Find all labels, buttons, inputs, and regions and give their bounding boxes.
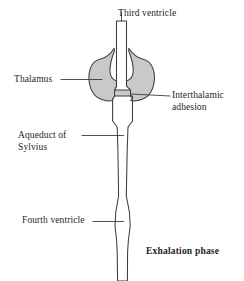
- interthalamic-adhesion-bridge: [115, 90, 131, 96]
- label-interthalamic-adhesion-line1: Interthalamic: [172, 90, 224, 100]
- label-interthalamic-adhesion-line2: adhesion: [172, 102, 207, 112]
- ventricle-lumen-shape: [113, 21, 133, 281]
- phase-caption: Exhalation phase: [146, 246, 219, 258]
- label-interthalamic-adhesion: Interthalamicadhesion: [172, 90, 224, 113]
- label-aqueduct-line2: Sylvius: [18, 142, 47, 152]
- label-third-ventricle: Third ventricle: [118, 8, 176, 20]
- label-aqueduct-of-sylvius: Aqueduct ofSylvius: [18, 130, 66, 153]
- ventricular-system-figure: Third ventricle Thalamus Interthalamicad…: [0, 0, 244, 281]
- thalamus-left-lobe: [89, 48, 117, 101]
- label-aqueduct-line1: Aqueduct of: [18, 130, 66, 140]
- label-fourth-ventricle: Fourth ventricle: [22, 215, 85, 227]
- label-thalamus: Thalamus: [14, 74, 52, 86]
